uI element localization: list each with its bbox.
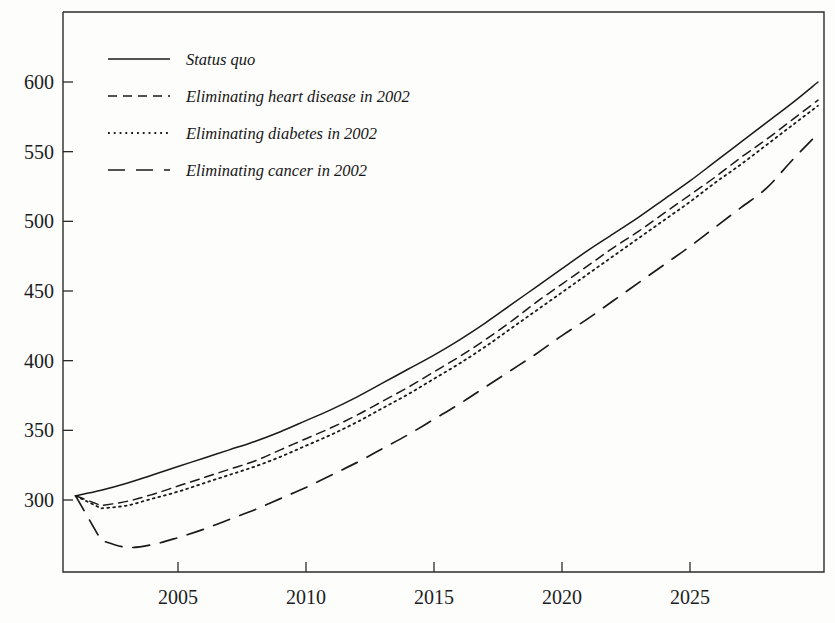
x-tick-label-2025: 2025: [670, 586, 710, 608]
y-tick-label-350: 350: [24, 419, 54, 441]
x-tick-label-2015: 2015: [414, 586, 454, 608]
chart-figure: 300350400450500550600 200520102015202020…: [0, 0, 835, 623]
y-tick-label-450: 450: [24, 280, 54, 302]
legend-label-eliminating-diabetes-in-2002: Eliminating diabetes in 2002: [185, 124, 377, 143]
y-tick-label-300: 300: [24, 489, 54, 511]
legend-label-eliminating-cancer-in-2002: Eliminating cancer in 2002: [185, 161, 367, 180]
series-line-eliminating-cancer-in-2002: [76, 134, 818, 548]
plot-axes: [63, 12, 824, 572]
x-axis-ticks: [178, 562, 690, 572]
line-chart: 300350400450500550600 200520102015202020…: [0, 0, 835, 623]
y-tick-label-400: 400: [24, 350, 54, 372]
y-axis-tick-labels: 300350400450500550600: [24, 71, 54, 511]
legend-label-status-quo: Status quo: [186, 50, 255, 69]
x-tick-label-2020: 2020: [542, 586, 582, 608]
legend-label-eliminating-heart-disease-in-2002: Eliminating heart disease in 2002: [185, 87, 410, 106]
series-line-status-quo: [76, 82, 818, 496]
data-series-group: [76, 82, 818, 548]
y-axis-ticks: [63, 82, 73, 500]
chart-legend: Status quoEliminating heart disease in 2…: [108, 50, 410, 180]
y-tick-label-500: 500: [24, 210, 54, 232]
x-tick-label-2010: 2010: [286, 586, 326, 608]
axis-frame: [63, 12, 824, 572]
y-tick-label-550: 550: [24, 141, 54, 163]
x-axis-tick-labels: 20052010201520202025: [158, 586, 710, 608]
y-tick-label-600: 600: [24, 71, 54, 93]
x-tick-label-2005: 2005: [158, 586, 198, 608]
